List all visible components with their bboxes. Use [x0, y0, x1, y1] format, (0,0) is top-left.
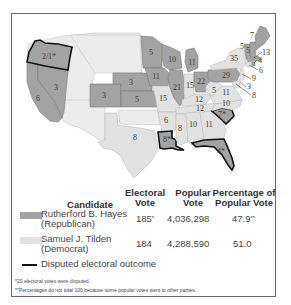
label-massachusetts: 13: [262, 48, 270, 57]
state-florida: [192, 139, 234, 170]
label-illinois: 21: [173, 83, 181, 92]
label-new-york: 35: [230, 54, 238, 63]
label-nebraska: 3: [129, 78, 133, 87]
state-kansas: [121, 91, 157, 107]
label-ohio: 22: [197, 77, 205, 86]
label-iowa: 11: [152, 72, 160, 81]
label-louisiana: 8*: [163, 135, 171, 144]
label-new-jersey: 9: [252, 74, 256, 83]
label-arkansas: 6: [164, 116, 168, 125]
label-tennessee: 12: [196, 104, 204, 113]
state-new-hampshire: [250, 42, 256, 57]
label-mississippi: 8: [178, 124, 182, 133]
label-florida: 4*: [217, 147, 225, 156]
label-colorado: 3: [102, 91, 106, 100]
label-wisconsin: 10: [168, 55, 176, 64]
label-new-hampshire: 5: [246, 46, 250, 55]
label-nevada: 3: [54, 83, 58, 92]
label-maryland: 8: [252, 91, 256, 100]
label-rhode-island: 4: [258, 56, 262, 65]
label-maine: 7: [250, 31, 254, 40]
label-minnesota: 5: [149, 48, 153, 57]
label-delaware: 3: [247, 82, 251, 91]
indian-territory: [118, 110, 160, 125]
label-north-carolina: 10: [222, 99, 230, 108]
label-kansas: 5: [135, 95, 139, 104]
label-pennsylvania: 29: [222, 71, 230, 80]
label-south-carolina: 7*: [218, 110, 226, 119]
label-texas: 8: [133, 133, 137, 142]
label-kentucky: 12: [195, 95, 203, 104]
label-georgia: 11: [205, 120, 213, 129]
label-connecticut: 6: [259, 66, 263, 75]
label-missouri: 15: [159, 94, 167, 103]
label-michigan: 11: [188, 58, 196, 67]
state-new-york: [210, 48, 246, 70]
label-virginia: 11: [222, 88, 230, 97]
us-election-map: 2/1* 6 3 3 3 5 8 5 11 15 10 21 11 15 22 …: [0, 0, 291, 305]
state-maine: [255, 26, 270, 50]
label-vermont: 5: [240, 42, 244, 51]
label-oregon: 2/1*: [42, 52, 56, 61]
label-california: 6: [36, 94, 40, 103]
label-indiana: 15: [186, 81, 194, 90]
label-alabama: 10: [189, 120, 197, 129]
label-west-virginia: 5: [212, 86, 216, 95]
